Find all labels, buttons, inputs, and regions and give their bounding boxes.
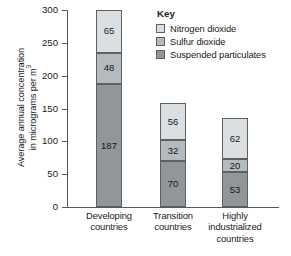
category-label-line: industrialized [195, 221, 275, 232]
legend-swatch-icon [156, 24, 165, 33]
y-axis-tick-label: 0 [18, 202, 58, 212]
y-axis-tick-mark [62, 141, 67, 142]
bar-stack: 703256 [160, 103, 186, 207]
legend-title: Key [156, 8, 266, 19]
y-axis-tick-label: 50 [18, 169, 58, 179]
bar-segment: 70 [160, 161, 186, 207]
bar-segment-value-label: 48 [104, 63, 115, 73]
y-axis-tick-label: 250 [18, 38, 58, 48]
y-axis-line [67, 10, 68, 208]
bar-segment-value-label: 65 [104, 26, 115, 36]
legend-entry: Sulfur dioxide [156, 35, 266, 48]
category-label-line: countries [195, 233, 275, 244]
legend-entries: Nitrogen dioxideSulfur dioxideSuspended … [156, 22, 266, 61]
x-axis-category-label: Highlyindustrializedcountries [195, 210, 275, 244]
y-axis-title-superscript: 3 [25, 65, 32, 69]
y-axis-tick-mark [62, 207, 67, 208]
legend-entry: Suspended particulates [156, 48, 266, 61]
bar-segment: 32 [160, 140, 186, 161]
bar-segment: 20 [222, 159, 248, 172]
bar-segment-value-label: 70 [168, 179, 179, 189]
y-axis-tick-mark [62, 76, 67, 77]
bar-segment-value-label: 32 [168, 146, 179, 156]
bar-segment: 56 [160, 103, 186, 140]
bar-segment: 62 [222, 118, 248, 159]
bar-segment: 48 [96, 53, 122, 85]
bar-stack: 532062 [222, 118, 248, 207]
bar-segment-value-label: 187 [101, 141, 117, 151]
y-axis-tick-label: 100 [18, 136, 58, 146]
x-axis-line [67, 207, 279, 208]
bar-segment-value-label: 53 [230, 185, 241, 195]
y-axis-tick-mark [62, 43, 67, 44]
legend-entry-label: Sulfur dioxide [170, 36, 225, 47]
bar-segment: 65 [96, 10, 122, 53]
bar-segment: 187 [96, 84, 122, 207]
y-axis-tick-mark [62, 10, 67, 11]
bar-stack: 1874865 [96, 10, 122, 207]
stacked-bar-chart: Average annual concentration in microgra… [0, 0, 291, 256]
bar-segment-value-label: 56 [168, 117, 179, 127]
legend-swatch-icon [156, 50, 165, 59]
bar-segment: 53 [222, 172, 248, 207]
y-axis-tick-mark [62, 174, 67, 175]
y-axis-tick-label: 300 [18, 5, 58, 15]
legend-swatch-icon [156, 37, 165, 46]
legend-entry-label: Suspended particulates [170, 49, 266, 60]
y-axis-tick-label: 150 [18, 104, 58, 114]
y-axis-tick-mark [62, 109, 67, 110]
legend: Key Nitrogen dioxideSulfur dioxideSuspen… [156, 8, 266, 61]
y-axis-tick-label: 200 [18, 71, 58, 81]
category-label-line: Highly [195, 210, 275, 221]
bar-segment-value-label: 20 [230, 161, 241, 171]
bar-segment-value-label: 62 [230, 134, 241, 144]
legend-entry: Nitrogen dioxide [156, 22, 266, 35]
legend-entry-label: Nitrogen dioxide [170, 23, 236, 34]
